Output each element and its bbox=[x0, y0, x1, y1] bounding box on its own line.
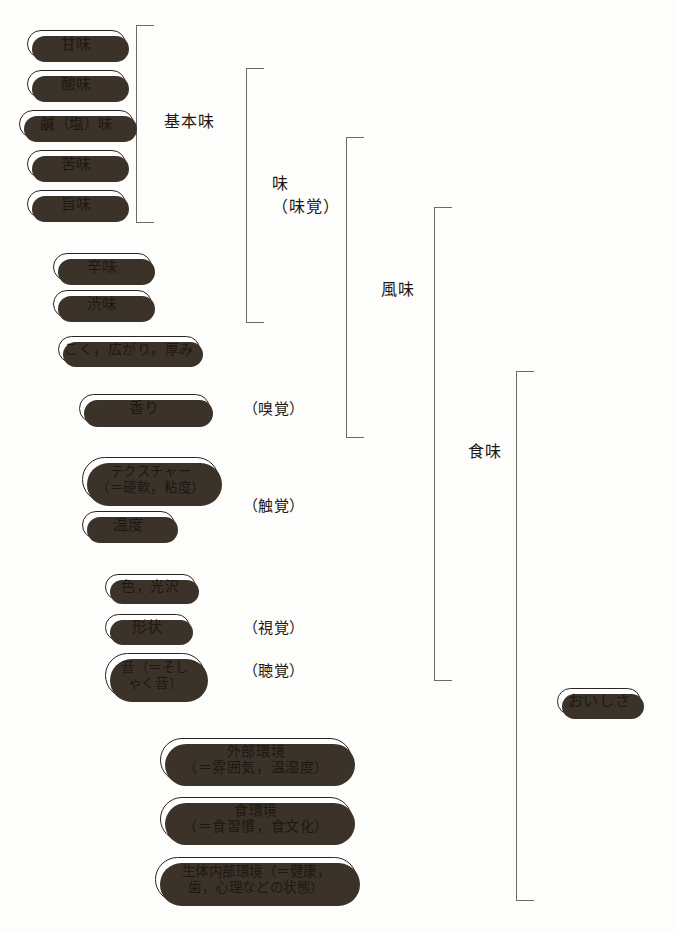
bracket-kihonmi bbox=[136, 25, 154, 223]
pill-gaibu-kankyou[interactable]: 外部環境 （＝雰囲気，温湿度） bbox=[160, 738, 352, 782]
pill-umami[interactable]: 旨味 bbox=[27, 190, 126, 218]
pill-texture[interactable]: テクスチャー （＝硬軟，粘度） bbox=[82, 457, 219, 502]
pill-iro-kotaku[interactable]: 色，光沢 bbox=[105, 574, 196, 600]
pill-karami[interactable]: 辛味 bbox=[53, 253, 152, 281]
sense-label-kyuukaku: （嗅覚） bbox=[243, 397, 305, 418]
sense-label-shokkaku: （触覚） bbox=[243, 494, 305, 515]
pill-nigami[interactable]: 苦味 bbox=[27, 150, 126, 178]
group-label-shokumi: 食味 bbox=[468, 440, 502, 463]
bracket-aji bbox=[246, 68, 264, 323]
bracket-fuumi bbox=[346, 137, 364, 438]
sense-label-choukaku: （聴覚） bbox=[243, 659, 305, 680]
group-label-aji: 味 （味覚） bbox=[272, 172, 340, 218]
pill-amami[interactable]: 甘味 bbox=[27, 30, 126, 58]
sense-label-shikaku: （視覚） bbox=[243, 616, 305, 637]
pill-sanmi[interactable]: 酸味 bbox=[27, 70, 126, 98]
group-label-fuumi: 風味 bbox=[381, 278, 415, 301]
pill-oishisa[interactable]: おいしさ bbox=[557, 688, 641, 715]
pill-keijou[interactable]: 形状 bbox=[105, 614, 190, 641]
group-label-kihonmi: 基本味 bbox=[164, 110, 215, 133]
pill-shoku-kankyou[interactable]: 食環境 （＝食習慣，食文化） bbox=[160, 797, 352, 841]
taste-structure-diagram: 基本味 味 （味覚） 風味 食味 （嗅覚） （触覚） （視覚） （聴覚） 甘味 … bbox=[0, 0, 677, 932]
bracket-shokumi bbox=[434, 207, 452, 681]
pill-seitai-naibu[interactable]: 生体内部環境（＝健康， 歯，心理などの状態） bbox=[155, 857, 357, 902]
pill-kaori[interactable]: 香り bbox=[79, 394, 210, 423]
pill-oto[interactable]: 音（＝そし ゃく音） bbox=[105, 653, 205, 698]
bracket-oishisa bbox=[516, 371, 534, 901]
pill-ondo[interactable]: 温度 bbox=[82, 511, 175, 539]
pill-koku[interactable]: こく，広がり，厚み bbox=[58, 336, 200, 363]
pill-shibumi[interactable]: 渋味 bbox=[53, 290, 152, 318]
pill-kanmi-shio[interactable]: 鹹（塩）味 bbox=[19, 110, 134, 138]
